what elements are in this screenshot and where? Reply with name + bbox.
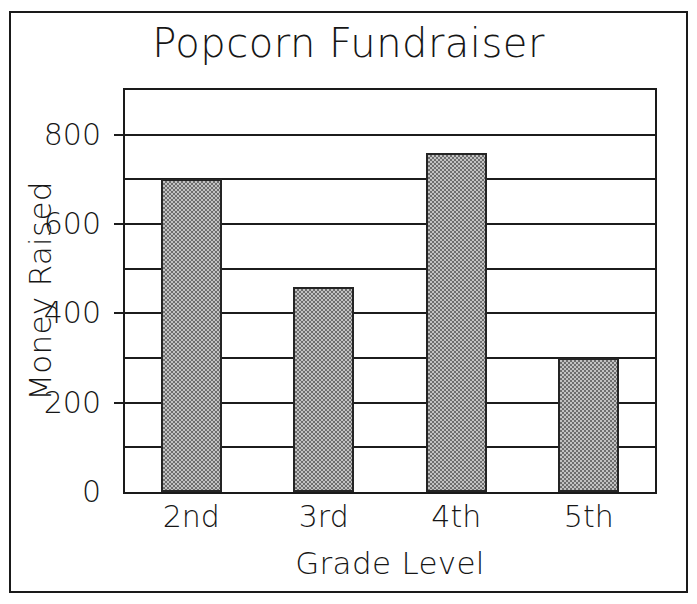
y-tick-mark-400	[114, 312, 123, 314]
plot-area	[123, 88, 657, 494]
y-tick-label-600: 600	[0, 209, 101, 239]
plot-inner-canvas	[125, 90, 655, 492]
y-tick-label-800: 800	[0, 120, 101, 150]
x-tick-label-2nd: 2nd	[125, 502, 258, 532]
y-tick-mark-200	[114, 402, 123, 404]
chart-title: Popcorn Fundraiser	[9, 22, 688, 64]
bar-4th	[426, 153, 487, 492]
x-tick-label-5th: 5th	[523, 502, 656, 532]
x-tick-label-4th: 4th	[390, 502, 523, 532]
y-tick-mark-800	[114, 134, 123, 136]
bar-2nd	[161, 179, 222, 492]
y-tick-label-200: 200	[0, 388, 101, 418]
chart-screenshot: Popcorn Fundraiser Money Raised 02004006…	[0, 0, 697, 604]
bar-5th	[558, 358, 619, 492]
bar-3rd	[293, 287, 354, 492]
x-tick-label-3rd: 3rd	[258, 502, 391, 532]
y-tick-mark-600	[114, 223, 123, 225]
y-tick-label-400: 400	[0, 298, 101, 328]
y-tick-label-0: 0	[0, 477, 101, 507]
gridline-800	[125, 134, 655, 136]
x-axis-title: Grade Level	[123, 545, 657, 581]
